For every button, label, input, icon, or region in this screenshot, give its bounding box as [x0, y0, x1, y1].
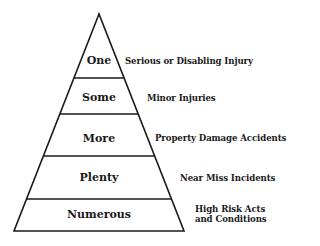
level-numerous-description: High Risk Acts and Conditions [195, 204, 265, 224]
level-plenty-description: Near Miss Incidents [180, 173, 275, 183]
level-some-label: Some [39, 91, 159, 104]
level-numerous-description-line2: and Conditions [195, 214, 265, 224]
level-some-description: Minor Injuries [147, 93, 216, 103]
level-plenty-label: Plenty [39, 171, 159, 184]
level-numerous-description-line1: High Risk Acts [195, 204, 265, 214]
level-numerous-label: Numerous [39, 208, 159, 221]
level-more-label: More [39, 132, 159, 145]
level-more-description: Property Damage Accidents [155, 133, 286, 143]
level-one-description: Serious or Disabling Injury [125, 56, 253, 66]
